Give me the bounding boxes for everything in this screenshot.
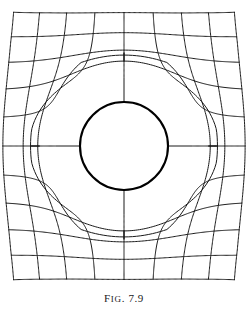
circular-hole [80,102,168,190]
grid-line [14,279,235,280]
grid-line [14,12,235,13]
circular-hole-group [80,102,168,190]
caption-prefix: F [104,292,111,304]
caption-smallcaps: IG [111,294,122,304]
figure-container: FIG. 7.9 [0,0,248,315]
flow-net-diagram [0,0,248,315]
caption-suffix: . 7.9 [122,292,144,304]
figure-caption: FIG. 7.9 [0,292,248,304]
